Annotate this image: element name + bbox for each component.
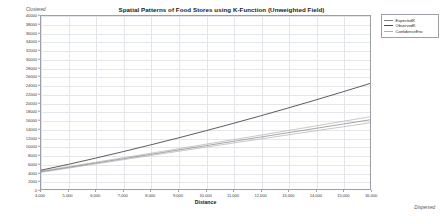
x-tick-mark	[123, 190, 124, 192]
x-tick-mark	[371, 190, 372, 192]
x-tick-label: 13,000	[282, 193, 294, 198]
x-tick-mark	[261, 190, 262, 192]
y-axis: 0200040006000800010000120001400016000180…	[0, 15, 40, 190]
y-tick-label: 26000	[26, 74, 37, 79]
y-tick-label: 4000	[28, 170, 37, 175]
y-tick-label: 20000	[26, 100, 37, 105]
x-tick-mark	[178, 190, 179, 192]
x-tick-mark	[343, 190, 344, 192]
chart-legend: ExpectedKObservedKConfidenceEnv	[381, 14, 439, 38]
x-tick-label: 7,000	[118, 193, 128, 198]
y-tick-label: 24000	[26, 83, 37, 88]
series-line-observedk	[41, 83, 370, 170]
legend-color-swatch	[384, 20, 393, 21]
x-tick-label: 16,000	[365, 193, 377, 198]
x-tick-label: 10,000	[199, 193, 211, 198]
x-tick-label: 6,000	[90, 193, 100, 198]
x-tick-label: 12,000	[255, 193, 267, 198]
legend-item[interactable]: ObservedK	[384, 23, 435, 28]
y-tick-label: 36000	[26, 30, 37, 35]
series-line-expectedk	[41, 120, 370, 172]
y-tick-label: 22000	[26, 91, 37, 96]
y-tick-label: 30000	[26, 56, 37, 61]
x-tick-label: 5,000	[63, 193, 73, 198]
x-tick-mark	[288, 190, 289, 192]
x-tick-label: 8,000	[145, 193, 155, 198]
legend-item-label: ExpectedK	[396, 18, 415, 23]
legend-item[interactable]: ConfidenceEnv	[384, 29, 435, 34]
x-tick-mark	[233, 190, 234, 192]
x-tick-mark	[95, 190, 96, 192]
x-axis-title: Distance	[40, 199, 371, 205]
chart-title: Spatial Patterns of Food Stores using K-…	[0, 6, 443, 13]
x-tick-label: 15,000	[337, 193, 349, 198]
x-tick-label: 9,000	[173, 193, 183, 198]
legend-color-swatch	[384, 31, 393, 32]
y-tick-label: 16000	[26, 118, 37, 123]
x-tick-mark	[316, 190, 317, 192]
y-tick-label: 40000	[26, 13, 37, 18]
y-tick-label: 18000	[26, 109, 37, 114]
legend-item-label: ObservedK	[396, 23, 416, 28]
y-tick-label: 10000	[26, 144, 37, 149]
series-lines	[41, 16, 370, 189]
y-tick-label: 38000	[26, 21, 37, 26]
y-tick-label: 2000	[28, 179, 37, 184]
clustered-annotation: Clustered	[26, 7, 46, 12]
x-tick-mark	[68, 190, 69, 192]
series-line-confidenceenvlower	[41, 123, 370, 173]
x-tick-label: 4,000	[35, 193, 45, 198]
x-tick-mark	[40, 190, 41, 192]
y-tick-label: 32000	[26, 48, 37, 53]
x-tick-label: 11,000	[227, 193, 239, 198]
series-line-confidenceenv	[41, 117, 370, 171]
x-tick-mark	[206, 190, 207, 192]
y-tick-label: 14000	[26, 126, 37, 131]
plot-area	[40, 15, 371, 190]
x-tick-label: 14,000	[310, 193, 322, 198]
legend-item[interactable]: ExpectedK	[384, 17, 435, 22]
y-tick-label: 34000	[26, 39, 37, 44]
y-tick-label: 8000	[28, 153, 37, 158]
chart-page: Spatial Patterns of Food Stores using K-…	[0, 0, 443, 224]
dispersed-annotation: Dispersed	[414, 205, 435, 210]
y-tick-label: 6000	[28, 161, 37, 166]
legend-item-label: ConfidenceEnv	[396, 29, 423, 34]
y-tick-label: 0	[35, 188, 37, 193]
x-tick-mark	[150, 190, 151, 192]
legend-color-swatch	[384, 25, 393, 26]
y-tick-label: 28000	[26, 65, 37, 70]
y-tick-label: 12000	[26, 135, 37, 140]
